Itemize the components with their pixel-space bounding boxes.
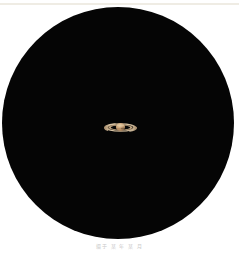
top-divider bbox=[0, 3, 239, 5]
saturn-globe bbox=[116, 123, 125, 131]
image-caption: 摄于 某 年 某 月 bbox=[0, 243, 239, 250]
astrophotography-page: 摄于 某 年 某 月 bbox=[0, 0, 239, 253]
ring-shadow bbox=[121, 127, 126, 129]
saturn-planet-image bbox=[104, 119, 137, 136]
